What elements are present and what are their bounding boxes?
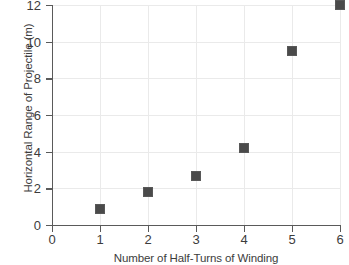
x-tick-label: 5 (280, 233, 304, 246)
data-point (191, 171, 201, 181)
y-axis-line (52, 5, 53, 226)
data-point (143, 187, 153, 197)
data-point (95, 204, 105, 214)
x-tick-label: 4 (232, 233, 256, 246)
y-tick-label: 8 (34, 72, 41, 85)
y-tick-label: 12 (27, 0, 41, 12)
y-tick-mark (46, 5, 52, 6)
y-tick-mark (46, 152, 52, 153)
x-tick-label: 3 (184, 233, 208, 246)
x-tick-label: 6 (328, 233, 349, 246)
x-axis-title: Number of Half-Turns of Winding (52, 252, 340, 264)
data-point (287, 46, 297, 56)
gridline-vertical (196, 5, 197, 225)
plot-area (52, 5, 340, 225)
y-tick-label: 10 (27, 36, 41, 49)
y-tick-mark (46, 115, 52, 116)
y-tick-label: 0 (34, 219, 41, 232)
gridline-vertical (244, 5, 245, 225)
data-point (239, 143, 249, 153)
y-tick-label: 4 (34, 146, 41, 159)
gridline-vertical (340, 5, 341, 225)
x-tick-label: 1 (88, 233, 112, 246)
x-tick-label: 0 (40, 233, 64, 246)
y-tick-mark (46, 188, 52, 189)
y-axis-title: Horizontal Range of Projectile (m) (22, 0, 34, 218)
gridline-vertical (292, 5, 293, 225)
y-tick-label: 2 (34, 182, 41, 195)
gridline-vertical (100, 5, 101, 225)
y-tick-mark (46, 78, 52, 79)
x-tick-label: 2 (136, 233, 160, 246)
data-point (335, 0, 345, 10)
y-tick-label: 6 (34, 109, 41, 122)
y-tick-mark (46, 42, 52, 43)
